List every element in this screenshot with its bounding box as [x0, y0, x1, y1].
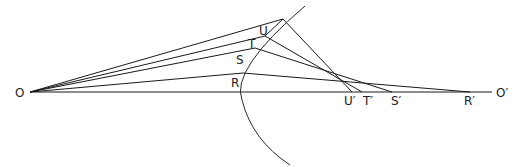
spherical-aberration-diagram: O O′ R S T U U′ T′ S′ R′ — [0, 0, 522, 167]
refracted-ray-U — [283, 19, 352, 92]
label-U-prime: U′ — [344, 94, 356, 108]
label-U: U — [259, 24, 268, 38]
label-S-prime: S′ — [391, 94, 402, 108]
refracted-ray-T — [265, 36, 362, 92]
label-O-prime: O′ — [496, 86, 508, 100]
label-R-prime: R′ — [464, 94, 475, 108]
label-T: T — [247, 37, 256, 51]
incident-ray-S — [30, 48, 255, 92]
incident-ray-T — [30, 36, 265, 92]
refracting-surface-arc — [240, 6, 305, 165]
label-S: S — [236, 53, 244, 67]
label-T-prime: T′ — [362, 94, 373, 108]
label-O: O — [15, 86, 24, 100]
label-R: R — [231, 76, 239, 90]
